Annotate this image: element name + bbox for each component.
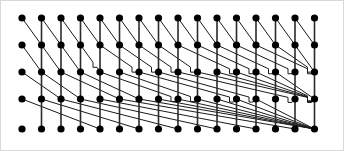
- network-node: [252, 41, 259, 48]
- network-node: [291, 68, 298, 75]
- network-node: [174, 14, 181, 21]
- wire-edge: [100, 18, 120, 45]
- network-node: [233, 14, 240, 21]
- network-node: [233, 95, 240, 102]
- network-node: [291, 14, 298, 21]
- wire-edge: [120, 18, 140, 45]
- network-node: [291, 95, 298, 102]
- network-node: [38, 68, 45, 75]
- network-node: [155, 68, 162, 75]
- wire-edge: [217, 18, 237, 45]
- network-node: [57, 68, 64, 75]
- network-node: [213, 41, 220, 48]
- network-node: [135, 14, 142, 21]
- network-node: [311, 125, 318, 132]
- network-node: [77, 14, 84, 21]
- wire-edge: [22, 18, 42, 45]
- network-node: [291, 125, 298, 132]
- network-node: [311, 41, 318, 48]
- network-node: [38, 95, 45, 102]
- network-node: [155, 125, 162, 132]
- wire-edge: [61, 45, 81, 72]
- network-node: [116, 14, 123, 21]
- network-node: [38, 125, 45, 132]
- network-node: [252, 95, 259, 102]
- network-node: [135, 125, 142, 132]
- network-node: [252, 14, 259, 21]
- wire-edge: [42, 18, 62, 45]
- network-node: [272, 95, 279, 102]
- wire-edge: [276, 18, 296, 45]
- network-node: [233, 41, 240, 48]
- sorting-network-figure: Sorting network node lattice: [0, 0, 344, 151]
- network-node: [272, 14, 279, 21]
- network-node: [174, 125, 181, 132]
- wire-edge: [81, 45, 101, 72]
- wire-edge: [139, 18, 159, 45]
- network-node: [77, 125, 84, 132]
- network-node: [233, 68, 240, 75]
- network-node: [57, 125, 64, 132]
- network-node: [116, 95, 123, 102]
- network-node: [77, 95, 84, 102]
- network-node: [213, 14, 220, 21]
- network-node: [272, 41, 279, 48]
- network-node: [96, 125, 103, 132]
- network-node: [18, 95, 25, 102]
- network-node: [116, 125, 123, 132]
- network-node: [194, 41, 201, 48]
- network-node: [77, 41, 84, 48]
- wire-edge: [139, 72, 237, 102]
- network-node: [18, 125, 25, 132]
- wire-edge: [256, 18, 276, 45]
- network-node: [18, 41, 25, 48]
- wire-edge: [139, 99, 315, 129]
- network-node: [135, 41, 142, 48]
- wire-edge: [198, 18, 218, 45]
- network-node: [194, 68, 201, 75]
- network-node: [272, 68, 279, 75]
- network-canvas: [1, 1, 344, 151]
- network-node: [174, 95, 181, 102]
- network-node: [272, 125, 279, 132]
- network-node: [135, 95, 142, 102]
- network-node: [194, 95, 201, 102]
- network-node: [57, 41, 64, 48]
- wire-edge: [159, 18, 179, 45]
- network-node: [213, 125, 220, 132]
- network-node: [311, 14, 318, 21]
- network-node: [116, 41, 123, 48]
- network-node: [174, 41, 181, 48]
- network-node: [233, 125, 240, 132]
- network-node: [155, 41, 162, 48]
- wire-edge: [61, 18, 81, 45]
- network-node: [116, 68, 123, 75]
- network-node: [252, 68, 259, 75]
- wire-edge: [42, 45, 62, 72]
- network-node: [57, 14, 64, 21]
- network-node: [155, 95, 162, 102]
- wire-edge: [81, 18, 101, 45]
- network-node: [57, 95, 64, 102]
- wire-edge: [295, 18, 315, 45]
- network-node: [18, 14, 25, 21]
- wire-edge: [22, 45, 42, 72]
- wire-edge: [237, 18, 257, 45]
- network-node: [311, 95, 318, 102]
- network-node: [194, 125, 201, 132]
- network-node: [38, 14, 45, 21]
- network-node: [135, 68, 142, 75]
- wire-edge: [120, 99, 296, 129]
- network-node: [291, 41, 298, 48]
- network-node: [174, 68, 181, 75]
- network-node: [38, 41, 45, 48]
- network-node: [311, 68, 318, 75]
- network-node: [194, 14, 201, 21]
- network-node: [96, 68, 103, 75]
- network-node: [18, 68, 25, 75]
- network-node: [96, 14, 103, 21]
- network-node: [155, 14, 162, 21]
- network-node: [96, 95, 103, 102]
- network-node: [252, 125, 259, 132]
- wire-edge: [178, 18, 198, 45]
